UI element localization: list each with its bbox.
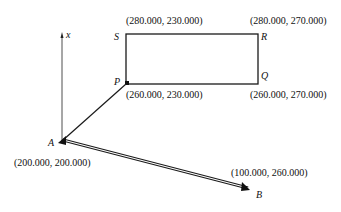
point-r-coord: (280.000, 270.000) xyxy=(250,15,327,27)
point-p-label: P xyxy=(113,76,120,87)
x-axis: x xyxy=(61,29,72,142)
point-b-marker xyxy=(241,182,250,191)
point-a-coord: (200.000, 200.000) xyxy=(14,157,91,169)
point-r-label: R xyxy=(260,31,267,42)
point-q-coord: (260.000, 270.000) xyxy=(250,89,327,101)
point-q-label: Q xyxy=(261,70,269,81)
line-a-p xyxy=(62,84,126,141)
coordinate-diagram: x S R P Q A B (280.000, 230.000) (280.00… xyxy=(0,0,341,212)
x-axis-label: x xyxy=(65,29,71,40)
double-line-a-b xyxy=(63,140,248,188)
point-s-label: S xyxy=(114,31,119,42)
point-b-label: B xyxy=(256,189,262,200)
point-b-coord: (100.000, 260.000) xyxy=(231,167,308,179)
point-s-coord: (280.000, 230.000) xyxy=(126,15,203,27)
point-p-coord: (260.000, 230.000) xyxy=(126,89,203,101)
rectangle-pqrs xyxy=(126,34,258,84)
point-a-label: A xyxy=(47,137,55,148)
